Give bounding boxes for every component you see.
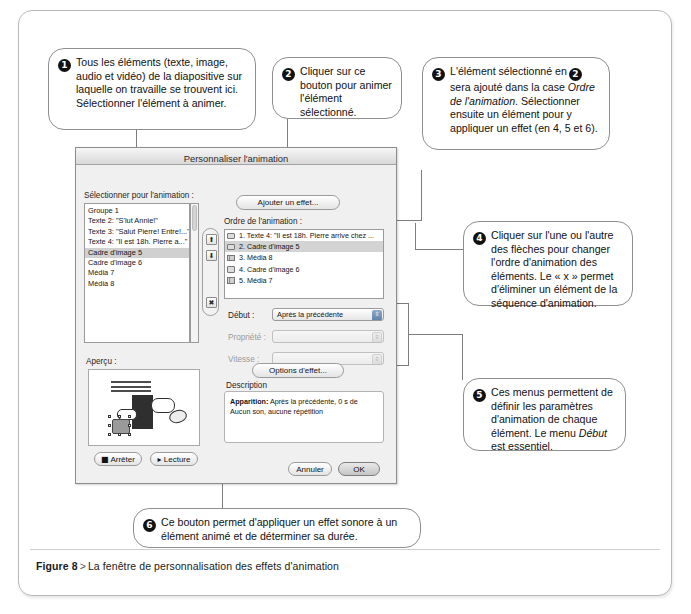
figure-label: Figure 8 bbox=[36, 560, 78, 572]
list-item[interactable]: Texte 2: "S'lut Annie!" bbox=[85, 216, 189, 226]
select-for-animation-label: Sélectionner pour l'animation : bbox=[84, 191, 194, 200]
order-item-label: 4. Cadre d'image 6 bbox=[239, 265, 300, 274]
connector-5 bbox=[408, 334, 463, 335]
selection-handle bbox=[108, 433, 111, 436]
chevron-updown-icon: ⇳ bbox=[372, 354, 382, 365]
connector-4-h bbox=[415, 249, 463, 250]
stop-button[interactable]: ■ Arrêter bbox=[94, 452, 142, 466]
animation-order-list[interactable]: 1. Texte 4: "Il est 18h. Pierre arrive c… bbox=[224, 229, 384, 299]
callout-3-part1: L'élément sélectionné en bbox=[450, 65, 567, 77]
move-down-button[interactable]: ⬇ bbox=[206, 250, 217, 261]
cancel-button[interactable]: Annuler bbox=[288, 462, 332, 476]
figure-page: 1 Tous les éléments (texte, image, audio… bbox=[0, 0, 691, 614]
callout-6-text: Ce bouton permet d'appliquer un effet so… bbox=[161, 516, 411, 543]
selection-handle bbox=[108, 424, 111, 427]
play-button[interactable]: ▸ Lecture bbox=[150, 452, 198, 466]
slide-speech-bubble-1 bbox=[151, 398, 175, 413]
list-item[interactable]: Média 8 bbox=[85, 279, 189, 289]
callout-6: 6 Ce bouton permet d'appliquer un effet … bbox=[133, 508, 421, 548]
callout-badge: 2 bbox=[282, 68, 295, 81]
callout-4-badge-col: 4 bbox=[473, 229, 491, 311]
debut-dropdown[interactable]: Après la précédente ⇳ bbox=[272, 308, 384, 321]
selection-handle bbox=[108, 415, 111, 418]
order-item[interactable]: 5. Média 7 bbox=[225, 275, 383, 286]
order-item-label: 2. Cadre d'image 5 bbox=[239, 242, 300, 251]
description-bold: Apparition: bbox=[230, 397, 268, 406]
callout-3-inline-badge: 2 bbox=[569, 68, 582, 81]
callout-badge: 4 bbox=[473, 232, 486, 245]
list-item[interactable]: Texte 3: "Salut Pierre! Entre!..." bbox=[85, 227, 189, 237]
stop-icon: ■ bbox=[101, 455, 109, 464]
description-line2: Aucun son, aucune répétition bbox=[230, 407, 323, 416]
caption-separator: > bbox=[78, 560, 88, 572]
debut-value: Après la précédente bbox=[277, 310, 343, 319]
window-title: Personnaliser l'animation bbox=[184, 153, 288, 164]
callout-1-text: Tous les éléments (texte, image, audio e… bbox=[76, 56, 246, 110]
callout-2-text: Cliquer sur ce bouton pour animer l'élém… bbox=[300, 65, 392, 119]
callout-5-part2: est essentiel. bbox=[491, 440, 553, 452]
callout-1: 1 Tous les éléments (texte, image, audio… bbox=[48, 48, 256, 130]
callout-1-badge-col: 1 bbox=[58, 56, 76, 110]
effect-options-button[interactable]: Options d'effet... bbox=[252, 363, 344, 378]
debut-label: Début : bbox=[228, 311, 254, 320]
elements-list-scrollbar[interactable] bbox=[190, 203, 199, 343]
order-item-label: 5. Média 7 bbox=[239, 276, 273, 285]
slide-thumbnail bbox=[99, 376, 191, 440]
caption-divider bbox=[30, 549, 660, 550]
list-item-selected[interactable]: Cadre d'image 5 bbox=[85, 248, 189, 258]
callout-3: 3 L'élément sélectionné en2sera ajouté d… bbox=[422, 57, 610, 150]
stop-button-label: Arrêter bbox=[110, 455, 134, 464]
vitesse-label: Vitesse : bbox=[228, 355, 259, 364]
caption-text: La fenêtre de personnalisation des effet… bbox=[88, 560, 339, 572]
remove-button[interactable]: ✖ bbox=[206, 297, 217, 308]
list-item[interactable]: Cadre d'image 6 bbox=[85, 258, 189, 268]
ok-button[interactable]: OK bbox=[338, 462, 380, 476]
window-body: Sélectionner pour l'animation : Groupe 1… bbox=[76, 165, 396, 483]
description-label: Description bbox=[226, 381, 267, 390]
add-effect-button[interactable]: Ajouter un effet... bbox=[236, 195, 340, 210]
list-item[interactable]: Média 7 bbox=[85, 268, 189, 278]
callout-badge: 6 bbox=[143, 519, 156, 532]
field-bracket-top bbox=[396, 303, 409, 304]
order-item-label: 3. Média 8 bbox=[239, 253, 273, 262]
callout-5-text: Ces menus permettent de définir les para… bbox=[491, 386, 616, 454]
animation-dialog-window: Personnaliser l'animation Sélectionner p… bbox=[75, 147, 397, 484]
selection-handle bbox=[118, 433, 121, 436]
reorder-button-group: ⬆ ⬇ ✖ bbox=[202, 228, 219, 316]
callout-3-text: L'élément sélectionné en2sera ajouté dan… bbox=[450, 65, 600, 135]
slide-text-block bbox=[111, 381, 151, 392]
order-item-selected[interactable]: 2. Cadre d'image 5 bbox=[225, 241, 383, 252]
scrollbar-thumb[interactable] bbox=[192, 205, 197, 231]
propriete-label: Propriété : bbox=[228, 333, 266, 342]
window-titlebar[interactable]: Personnaliser l'animation bbox=[76, 148, 396, 165]
list-item[interactable]: Texte 4: "Il est 18h. Pierre a..." bbox=[85, 237, 189, 247]
callout-3-badge-col: 3 bbox=[432, 65, 450, 135]
selection-handle bbox=[128, 433, 131, 436]
selection-handle bbox=[128, 424, 131, 427]
description-box: Apparition: Après la précédente, 0 s de … bbox=[224, 391, 384, 443]
star-icon bbox=[227, 266, 235, 273]
preview-label: Aperçu : bbox=[86, 357, 117, 366]
film-icon bbox=[227, 277, 235, 284]
order-item[interactable]: 1. Texte 4: "Il est 18h. Pierre arrive c… bbox=[225, 230, 383, 241]
star-icon bbox=[227, 244, 235, 251]
order-item[interactable]: 3. Média 8 bbox=[225, 252, 383, 263]
field-bracket-bottom bbox=[396, 365, 409, 366]
preview-pane bbox=[88, 369, 200, 446]
callout-badge: 3 bbox=[432, 68, 445, 81]
list-item[interactable]: Groupe 1 bbox=[85, 206, 189, 216]
propriete-dropdown[interactable]: ⇳ bbox=[272, 330, 384, 343]
play-button-label: Lecture bbox=[164, 455, 191, 464]
star-icon bbox=[227, 233, 235, 240]
callout-2: 2 Cliquer sur ce bouton pour animer l'él… bbox=[272, 57, 402, 119]
animation-order-label: Ordre de l'animation : bbox=[224, 217, 302, 226]
selection-handle bbox=[118, 415, 121, 418]
move-up-button[interactable]: ⬆ bbox=[206, 234, 217, 245]
callout-5: 5 Ces menus permettent de définir les pa… bbox=[463, 378, 626, 451]
chevron-updown-icon: ⇳ bbox=[372, 332, 382, 343]
elements-list[interactable]: Groupe 1 Texte 2: "S'lut Annie!" Texte 3… bbox=[84, 203, 190, 343]
order-item[interactable]: 4. Cadre d'image 6 bbox=[225, 264, 383, 275]
chevron-updown-icon: ⇳ bbox=[372, 310, 382, 321]
play-icon: ▸ bbox=[158, 455, 162, 464]
order-item-label: 1. Texte 4: "Il est 18h. Pierre arrive c… bbox=[239, 231, 374, 240]
